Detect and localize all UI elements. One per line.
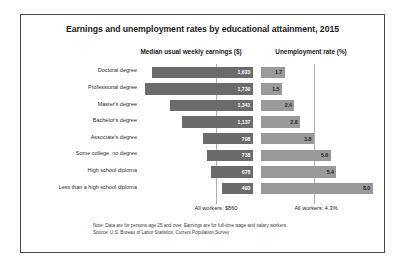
earnings-bar: 798 <box>203 133 253 144</box>
unemployment-bar-track: 2.4 <box>261 100 381 111</box>
unemployment-bar-track: 8.0 <box>261 183 381 194</box>
unemployment-bar-track: 1.7 <box>261 67 381 78</box>
earnings-bar-track: 678 <box>141 166 253 177</box>
plot-area: Doctoral degree1,6231.7Professional degr… <box>21 64 384 197</box>
unemployment-value-label: 8.0 <box>363 185 373 191</box>
category-label: Professional degree <box>21 84 137 90</box>
note-line: Note: Data are for persons age 25 and ov… <box>93 222 383 229</box>
category-label: Master's degree <box>21 101 137 107</box>
earnings-bar-track: 738 <box>141 150 253 161</box>
category-label: High school diploma <box>21 167 137 173</box>
unemployment-bar: 5.0 <box>261 150 331 161</box>
chart-row: High school diploma6785.4 <box>21 164 384 181</box>
category-label: Bachelor's degree <box>21 117 137 123</box>
chart-row: Master's degree1,3412.4 <box>21 97 384 114</box>
chart-frame: Earnings and unemployment rates by educa… <box>20 14 385 253</box>
earnings-bar: 493 <box>222 183 253 194</box>
earnings-value-label: 1,341 <box>238 102 253 108</box>
unemployment-value-label: 1.7 <box>275 69 285 75</box>
chart-row: Less than a high school diploma4938.0 <box>21 180 384 197</box>
earnings-bar: 738 <box>207 150 253 161</box>
earnings-bar-track: 493 <box>141 183 253 194</box>
chart-row: Associate's degree7983.8 <box>21 130 384 147</box>
category-label: Doctoral degree <box>21 67 137 73</box>
earnings-bar-track: 1,137 <box>141 116 253 127</box>
category-label: Some college, no degree <box>21 150 137 156</box>
unemployment-value-label: 1.5 <box>272 86 282 92</box>
earnings-bar: 1,341 <box>170 100 253 111</box>
earnings-bar-track: 1,341 <box>141 100 253 111</box>
earnings-bar-track: 798 <box>141 133 253 144</box>
earnings-value-label: 1,623 <box>238 69 253 75</box>
unemployment-bar-track: 5.0 <box>261 150 381 161</box>
unemployment-value-label: 3.8 <box>304 136 314 142</box>
chart-row: Some college, no degree7385.0 <box>21 147 384 164</box>
unemployment-value-label: 5.4 <box>327 169 337 175</box>
unemployment-value-label: 2.4 <box>285 102 295 108</box>
source-line: Source: U.S. Bureau of Labor Statistics,… <box>93 229 383 236</box>
earnings-bar: 1,623 <box>152 67 253 78</box>
unemployment-bar: 1.7 <box>261 67 285 78</box>
chart-title: Earnings and unemployment rates by educa… <box>21 24 384 34</box>
unemployment-bar: 5.4 <box>261 166 336 177</box>
earnings-bar-track: 1,623 <box>141 67 253 78</box>
unemployment-bar: 2.4 <box>261 100 294 111</box>
earnings-value-label: 1,730 <box>238 86 253 92</box>
earnings-bar: 1,137 <box>182 116 253 127</box>
category-label: Less than a high school diploma <box>21 184 137 190</box>
category-label: Associate's degree <box>21 134 137 140</box>
earnings-bar: 1,730 <box>145 83 253 94</box>
earnings-bar-track: 1,730 <box>141 83 253 94</box>
unemployment-bar-track: 5.4 <box>261 166 381 177</box>
unemployment-bar: 1.5 <box>261 83 282 94</box>
unemployment-value-label: 5.0 <box>321 152 331 158</box>
all-workers-unemployment-label: All workers: 4.3% <box>256 205 376 211</box>
chart-row: Doctoral degree1,6231.7 <box>21 64 384 81</box>
earnings-bar: 678 <box>211 166 253 177</box>
unemployment-bar-track: 3.8 <box>261 133 381 144</box>
earnings-value-label: 1,137 <box>238 119 253 125</box>
column-header-earnings: Median usual weekly earnings ($) <box>129 48 253 55</box>
chart-row: Professional degree1,7301.5 <box>21 81 384 98</box>
unemployment-bar: 8.0 <box>261 183 373 194</box>
unemployment-value-label: 2.8 <box>290 119 300 125</box>
earnings-value-label: 798 <box>242 136 253 142</box>
chart-notes: Note: Data are for persons age 25 and ov… <box>93 222 383 237</box>
earnings-value-label: 493 <box>242 185 253 191</box>
chart-row: Bachelor's degree1,1372.8 <box>21 114 384 131</box>
unemployment-bar-track: 1.5 <box>261 83 381 94</box>
earnings-value-label: 738 <box>242 152 253 158</box>
unemployment-bar: 2.8 <box>261 116 300 127</box>
unemployment-bar: 3.8 <box>261 133 314 144</box>
unemployment-bar-track: 2.8 <box>261 116 381 127</box>
column-header-unemployment: Unemployment rate (%) <box>259 48 363 55</box>
earnings-value-label: 678 <box>242 169 253 175</box>
